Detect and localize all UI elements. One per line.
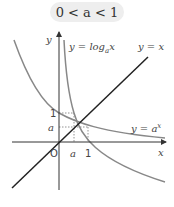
log-curve: [64, 40, 165, 182]
line-label: y = x: [137, 41, 164, 52]
log-curve-label: y = logax: [68, 41, 115, 55]
exp-curve-label: y = ax: [130, 122, 161, 134]
one-y-label: 1: [50, 108, 56, 119]
origin-label: O: [50, 148, 58, 159]
graph: y x O a 1 1 a y = logax y = x y = ax: [0, 0, 174, 207]
a-y-label: a: [48, 122, 54, 133]
a-x-label: a: [70, 148, 76, 159]
x-axis-label: x: [158, 147, 164, 158]
y-axis-label: y: [45, 34, 52, 45]
one-x-label: 1: [85, 148, 91, 159]
